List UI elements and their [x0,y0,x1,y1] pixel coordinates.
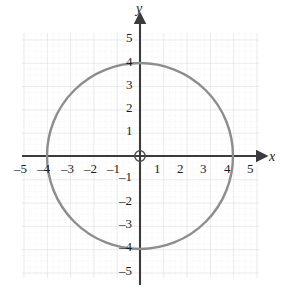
x-tick-label-8: 4 [224,162,231,175]
x-tick-label-2: –3 [61,162,74,175]
y-tick-label-6: –2 [119,194,132,207]
y-tick-label-1: 4 [126,55,133,68]
x-tick-label-9: 5 [247,162,254,175]
y-tick-label-5: –1 [119,170,132,183]
y-tick-label-3: 2 [126,101,133,114]
y-tick-label-4: 1 [126,124,133,137]
y-tick-label-0: 5 [126,31,133,44]
x-tick-label-1: –4 [37,162,50,175]
x-axis-label: x [269,150,275,164]
y-tick-label-8: –4 [119,240,132,253]
x-tick-label-7: 3 [200,162,207,175]
y-tick-label-2: 3 [126,78,133,91]
x-tick-label-5: 1 [154,162,161,175]
graph-canvas [0,0,285,290]
y-axis-label: y [136,2,142,16]
y-tick-label-7: –3 [119,217,132,230]
x-tick-label-6: 2 [177,162,184,175]
x-tick-label-3: –2 [84,162,97,175]
y-tick-label-9: –5 [119,264,132,277]
coordinate-plane-figure: –5–4–3–2–112345 54321–1–2–3–4–5 x y [0,0,285,290]
x-tick-label-0: –5 [14,162,27,175]
